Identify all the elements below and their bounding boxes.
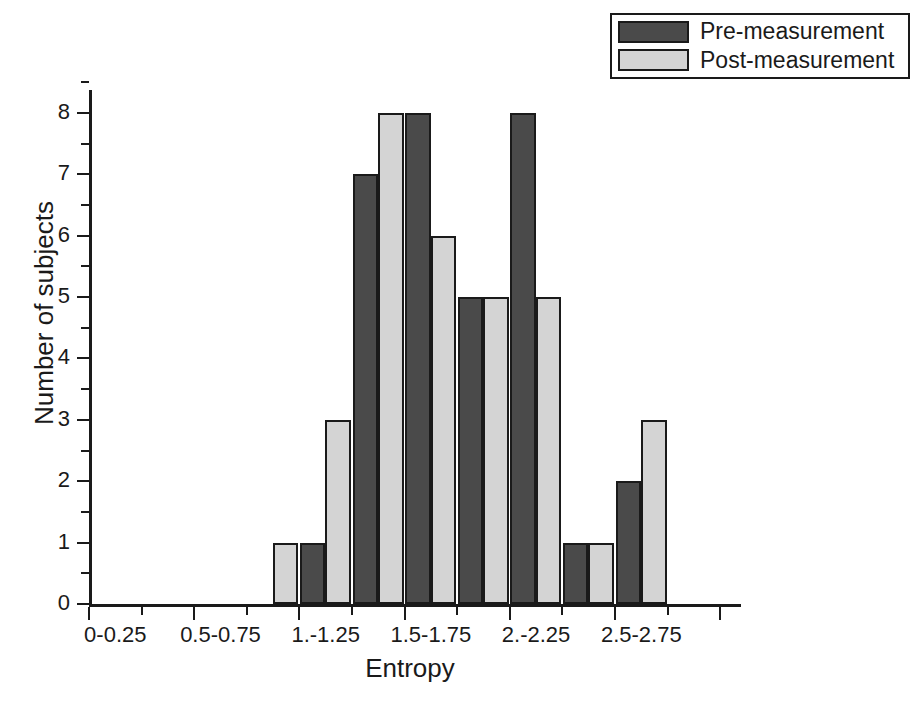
y-tick-major xyxy=(77,419,89,421)
y-tick-minor xyxy=(81,143,89,145)
bar xyxy=(353,174,379,604)
y-tick-minor xyxy=(81,450,89,452)
y-tick-major xyxy=(77,357,89,359)
x-tick-minor xyxy=(246,607,248,615)
y-tick-major xyxy=(77,296,89,298)
legend-label-post: Post-measurement xyxy=(700,49,894,72)
y-tick-minor xyxy=(81,511,89,513)
bar xyxy=(536,297,562,604)
bar xyxy=(510,113,536,604)
x-axis-title: Entropy xyxy=(0,655,820,681)
bar xyxy=(641,420,667,604)
y-axis-title-wrapper: Number of subjects xyxy=(0,0,40,701)
x-tick-minor xyxy=(456,607,458,615)
x-tick-major xyxy=(509,607,511,620)
x-tick-minor xyxy=(351,607,353,615)
bar xyxy=(588,543,614,604)
legend-swatch-post-icon xyxy=(618,49,689,71)
y-tick-major xyxy=(77,173,89,175)
y-tick-major xyxy=(77,480,89,482)
legend-label-pre: Pre-measurement xyxy=(700,20,884,43)
y-tick-major xyxy=(77,235,89,237)
y-tick-minor xyxy=(81,265,89,267)
bars-layer xyxy=(89,90,741,604)
bar xyxy=(563,543,589,604)
y-tick-minor xyxy=(81,81,89,83)
x-tick-minor xyxy=(561,607,563,615)
chart-legend: Pre-measurement Post-measurement xyxy=(610,13,910,79)
x-tick-major xyxy=(614,607,616,620)
bar xyxy=(405,113,431,604)
bar xyxy=(273,543,299,604)
bar xyxy=(378,113,404,604)
x-tick-major xyxy=(193,607,195,620)
x-axis-line xyxy=(89,604,741,607)
y-tick-minor xyxy=(81,327,89,329)
legend-item-post-measurement: Post-measurement xyxy=(618,48,902,74)
x-tick-major xyxy=(404,607,406,620)
bar xyxy=(458,297,484,604)
y-axis-title: Number of subjects xyxy=(31,103,57,523)
y-tick-major xyxy=(77,542,89,544)
x-tick-major xyxy=(298,607,300,620)
entropy-histogram-chart: Pre-measurement Post-measurement 0123456… xyxy=(0,0,923,701)
legend-item-pre-measurement: Pre-measurement xyxy=(618,19,902,45)
y-tick-minor xyxy=(81,572,89,574)
legend-swatch-pre-icon xyxy=(618,21,689,43)
y-tick-major xyxy=(77,112,89,114)
x-tick-major xyxy=(719,607,721,620)
y-tick-minor xyxy=(81,388,89,390)
x-tick-minor xyxy=(667,607,669,615)
x-tick-major xyxy=(88,607,90,620)
y-tick-major xyxy=(77,603,89,605)
x-tick-label: 2.5-2.75 xyxy=(571,624,711,646)
bar xyxy=(325,420,351,604)
x-tick-minor xyxy=(141,607,143,615)
y-tick-minor xyxy=(81,204,89,206)
bar xyxy=(616,481,642,604)
bar xyxy=(300,543,326,604)
bar xyxy=(483,297,509,604)
bar xyxy=(431,236,457,604)
